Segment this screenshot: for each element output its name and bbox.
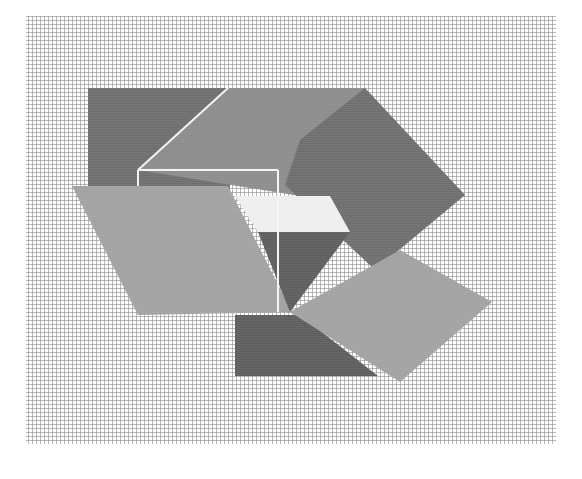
artwork-canvas bbox=[0, 0, 582, 479]
